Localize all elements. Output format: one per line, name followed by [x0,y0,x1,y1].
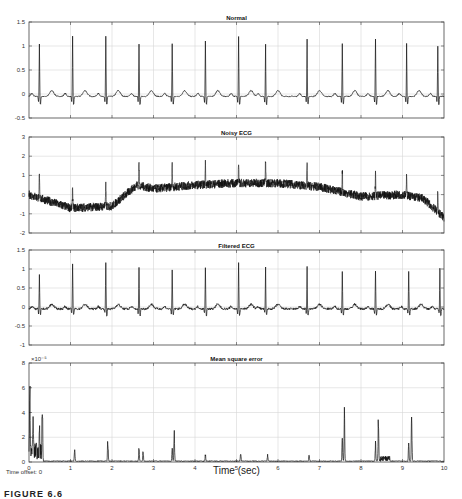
y-tick-label: 1.5 [17,247,26,253]
y-tick-label: 4 [22,410,26,416]
y-tick-label: 0 [22,192,26,198]
y-tick-label: -0.5 [15,115,26,121]
y-tick-label: 0 [22,91,26,97]
panel-title: Filtered ECG [218,243,255,249]
y-tick-label: -2 [20,230,26,236]
panel-title: Noisy ECG [221,130,252,136]
filtered-panel [29,250,444,345]
mse-panel [29,363,444,462]
y-tick-label: 1.5 [17,19,26,25]
panel-title: Mean square error [210,356,263,362]
y-tick-label: 2 [22,434,26,440]
figure-caption: FIGURE 6.6 [4,489,63,499]
y-tick-label: 1 [22,43,26,49]
y-tick-label: 0.5 [17,67,26,73]
y-tick-label: 1 [22,266,26,272]
y-tick-label: -0.5 [15,323,26,329]
y-tick-label: 8 [22,360,26,366]
y-tick-label: -1 [20,342,26,348]
y-exponent-label: ×10⁻⁵ [31,356,47,362]
x-tick-label: 3 [152,465,156,471]
y-tick-label: 2 [22,153,26,159]
x-tick-label: 4 [193,465,197,471]
panel-title: Normal [226,15,247,21]
noisy-panel [29,137,444,233]
y-tick-label: 6 [22,385,26,391]
x-tick-label: 2 [110,465,114,471]
x-tick-label: 10 [441,465,448,471]
x-tick-label: 6 [276,465,280,471]
x-tick-label: 1 [69,465,73,471]
y-tick-label: 0 [22,459,26,465]
x-tick-label: 8 [359,465,363,471]
ecg-figure: 1.510.50-0.5Normal3210-1-2Noisy ECG1.510… [0,0,462,499]
normal-panel [29,22,444,118]
y-tick-label: -1 [20,211,26,217]
x-tick-label: 7 [318,465,322,471]
y-tick-label: 1 [22,172,26,178]
x-axis-label: Time (sec) [213,465,260,476]
time-offset-label: Time offset: 0 [6,469,43,475]
x-tick-label: 9 [401,465,405,471]
y-tick-label: 0 [22,304,26,310]
y-tick-label: 3 [22,134,26,140]
y-tick-label: 0.5 [17,285,26,291]
